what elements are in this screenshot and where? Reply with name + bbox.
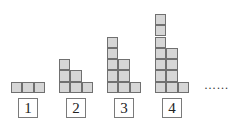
tile-cell: [166, 59, 177, 70]
tile-cell: [155, 14, 166, 25]
tile-cell: [22, 82, 33, 93]
figure-label: 4: [162, 98, 182, 118]
tile-cell: [155, 82, 166, 93]
tile-cell: [34, 82, 45, 93]
tile-cell: [11, 82, 22, 93]
tile-cell: [155, 59, 166, 70]
tile-cell: [130, 82, 141, 93]
tile-cell: [107, 48, 118, 59]
figure-label: 1: [18, 98, 38, 118]
tile-cell: [155, 25, 166, 36]
ellipsis: ……: [204, 78, 229, 93]
figure-label: 3: [114, 98, 134, 118]
tile-cell: [107, 37, 118, 48]
tile-cell: [82, 82, 93, 93]
tile-cell: [59, 70, 70, 81]
tile-cell: [118, 70, 129, 81]
tile-cell: [107, 70, 118, 81]
figure-label: 2: [66, 98, 86, 118]
tile-cell: [155, 70, 166, 81]
tile-cell: [178, 82, 189, 93]
tile-cell: [118, 59, 129, 70]
tile-cell: [59, 59, 70, 70]
tile-cell: [70, 70, 81, 81]
tile-cell: [107, 82, 118, 93]
tile-cell: [155, 37, 166, 48]
tile-cell: [70, 82, 81, 93]
tile-cell: [107, 59, 118, 70]
tile-cell: [166, 70, 177, 81]
tile-cell: [59, 82, 70, 93]
tile-cell: [118, 82, 129, 93]
tile-cell: [166, 48, 177, 59]
tile-cell: [155, 48, 166, 59]
tile-cell: [166, 82, 177, 93]
